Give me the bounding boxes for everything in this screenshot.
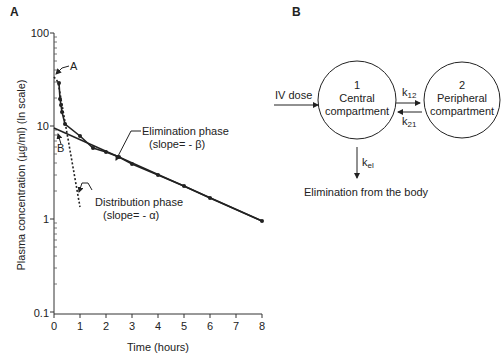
x-tick-labels: 0 1 2 3 4 5 6 7 8 [51, 320, 265, 332]
peripheral-compartment-number: 2 [459, 79, 465, 91]
x-tick-0: 0 [51, 320, 57, 332]
x-tick-4: 4 [155, 320, 161, 332]
x-tick-6: 6 [207, 320, 213, 332]
annotation-a: A [70, 60, 78, 72]
y-tick-labels: 100 10 1 0.1 [31, 27, 49, 319]
distribution-phase-label: Distribution phase [95, 196, 183, 208]
x-tick-2: 2 [103, 320, 109, 332]
central-compartment-line2: compartment [325, 105, 389, 117]
distribution-callout-arrow [79, 183, 92, 192]
k12-label: k12 [402, 86, 417, 100]
distribution-slope-label: (slope= - α) [103, 209, 159, 221]
y-tick-0-1: 0.1 [34, 307, 49, 319]
y-tick-10: 10 [37, 120, 49, 132]
panel-label-a: A [10, 5, 19, 19]
x-ticks [54, 314, 262, 318]
x-tick-1: 1 [77, 320, 83, 332]
elimination-from-body-label: Elimination from the body [304, 186, 429, 198]
iv-dose-label: IV dose [275, 89, 312, 101]
kel-label: kel [362, 156, 374, 170]
chart-panel-a: 100 10 1 0.1 0 1 2 3 4 5 6 7 8 Time (hou… [15, 27, 265, 353]
x-tick-7: 7 [233, 320, 239, 332]
peripheral-compartment-line2: compartment [430, 105, 494, 117]
annotation-a-arrow [56, 66, 69, 74]
panel-label-b: B [292, 5, 301, 19]
peripheral-compartment-line1: Peripheral [437, 92, 487, 104]
compartment-diagram-b: IV dose 1 Central compartment 2 Peripher… [274, 61, 500, 198]
central-compartment-number: 1 [354, 79, 360, 91]
x-tick-5: 5 [181, 320, 187, 332]
figure: A B [0, 0, 501, 361]
y-tick-1: 1 [43, 213, 49, 225]
y-major-ticks [50, 33, 54, 312]
x-tick-8: 8 [259, 320, 265, 332]
elimination-slope-label: (slope= - β) [149, 138, 205, 150]
central-compartment-line1: Central [339, 92, 374, 104]
elimination-phase-label: Elimination phase [142, 125, 229, 137]
y-tick-100: 100 [31, 27, 49, 39]
y-axis-title: Plasma concentration (µg/ml) (ln scale) [15, 80, 27, 271]
x-tick-3: 3 [129, 320, 135, 332]
x-axis-title: Time (hours) [127, 341, 189, 353]
k21-label: k21 [402, 115, 417, 129]
annotation-b: B [57, 142, 64, 154]
